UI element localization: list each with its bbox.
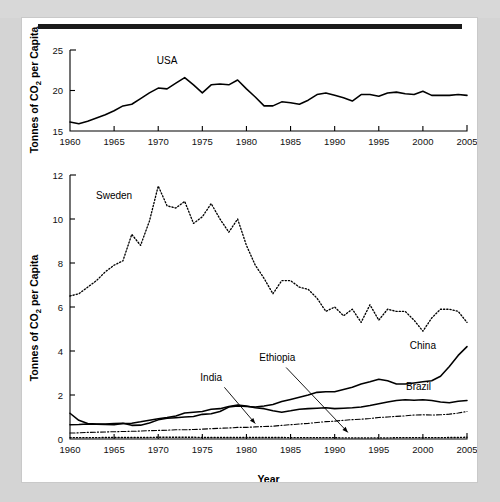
x-tick-label: 1970 — [148, 136, 169, 147]
series-line-ethiopia — [70, 437, 467, 438]
series-label-usa: USA — [157, 55, 178, 66]
series-label-india: India — [200, 372, 222, 383]
series-line-sweden — [70, 186, 467, 331]
x-tick-label: 1960 — [59, 444, 80, 455]
x-tick-label: 1990 — [324, 136, 345, 147]
y-axis-title: Tonnes of CO2 per Capita — [28, 27, 43, 154]
x-tick-label: 1975 — [192, 444, 213, 455]
x-tick-label: 2000 — [412, 136, 433, 147]
x-tick-label: 1965 — [104, 444, 125, 455]
series-line-usa — [70, 78, 467, 124]
y-tick-label: 2 — [58, 390, 63, 401]
axis-frame — [70, 50, 467, 131]
annotation-arrow-india — [224, 387, 255, 423]
y-tick-label: 12 — [52, 170, 63, 181]
page-top-strip — [0, 0, 500, 18]
y-axis-title: Tonnes of CO2 per Capita — [28, 255, 43, 382]
series-line-india — [70, 412, 467, 434]
x-tick-label: 1960 — [59, 136, 80, 147]
x-tick-label: 1990 — [324, 444, 345, 455]
x-tick-label: 1970 — [148, 444, 169, 455]
series-line-brazil — [70, 400, 467, 425]
y-tick-label: 6 — [58, 302, 63, 313]
chart-canvas: 1520251960196519701975198019851990199520… — [22, 18, 477, 482]
series-label-china: China — [410, 340, 437, 351]
x-axis-title: Year — [257, 473, 279, 482]
series-label-brazil: Brazil — [406, 381, 431, 392]
y-axis-title-prefix: Tonnes of CO — [28, 313, 40, 381]
scanned-page-background: 1520251960196519701975198019851990199520… — [0, 0, 500, 502]
y-tick-label: 0 — [58, 434, 63, 445]
y-axis-title-suffix: per Capita — [28, 27, 40, 81]
figure-co2-per-capita: 1520251960196519701975198019851990199520… — [22, 18, 477, 482]
x-tick-label: 2000 — [412, 444, 433, 455]
x-tick-label: 1985 — [280, 444, 301, 455]
y-axis-title-prefix: Tonnes of CO — [28, 85, 40, 153]
y-tick-label: 10 — [52, 214, 63, 225]
y-tick-label: 8 — [58, 258, 63, 269]
x-tick-label: 1975 — [192, 136, 213, 147]
x-tick-label: 2005 — [456, 136, 477, 147]
y-tick-label: 20 — [52, 85, 63, 96]
x-tick-label: 1995 — [368, 444, 389, 455]
x-tick-label: 1965 — [104, 136, 125, 147]
panel-usa-panel: 1520251960196519701975198019851990199520… — [28, 27, 477, 154]
y-tick-label: 4 — [58, 346, 63, 357]
x-tick-label: 1995 — [368, 136, 389, 147]
x-tick-label: 1980 — [236, 444, 257, 455]
x-tick-label: 1985 — [280, 136, 301, 147]
y-axis-title-suffix: per Capita — [28, 255, 40, 309]
x-tick-label: 2005 — [456, 444, 477, 455]
panel-countries-panel: 0246810121960196519701975198019851990199… — [28, 170, 477, 456]
y-tick-label: 15 — [52, 126, 63, 137]
series-label-sweden: Sweden — [96, 190, 132, 201]
series-label-ethiopia: Ethiopia — [259, 352, 296, 363]
x-tick-label: 1980 — [236, 136, 257, 147]
y-tick-label: 25 — [52, 45, 63, 56]
